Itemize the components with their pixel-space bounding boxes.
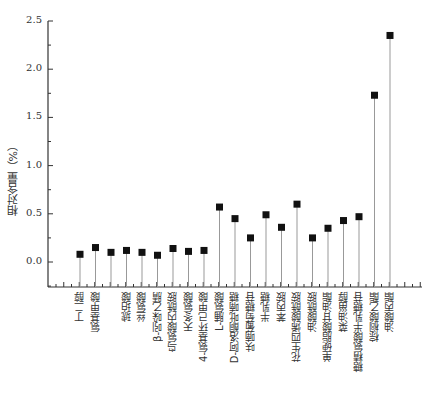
x-tick-label: D-阿洛酮吡喃糖 xyxy=(229,292,240,363)
data-point-marker xyxy=(216,204,223,211)
data-point-marker xyxy=(356,213,363,220)
x-tick-label: 琥珀酸 xyxy=(121,292,132,322)
data-point-marker xyxy=(263,211,270,218)
x-tick-label: 天冬氨酸 xyxy=(183,292,194,332)
data-point-marker xyxy=(77,251,84,258)
y-tick-label: 1.0 xyxy=(18,159,42,170)
data-point-marker xyxy=(170,245,177,252)
x-tick-label: 菜油甾醇 xyxy=(338,292,349,332)
data-point-marker xyxy=(247,234,254,241)
y-tick-label: 1.5 xyxy=(18,110,42,121)
data-point-marker xyxy=(232,215,239,222)
x-tick-label: 苯丙胺 xyxy=(276,292,287,322)
x-tick-label: 呋喃葡萄糖苷 xyxy=(245,292,256,352)
x-tick-label: 鸟氨酸内酰胺 xyxy=(167,292,178,352)
data-point-marker xyxy=(154,252,161,259)
data-point-marker xyxy=(294,201,301,208)
x-tick-label: 单硬脂酸甘油酯 xyxy=(322,292,333,362)
data-point-marker xyxy=(139,249,146,256)
y-tick-label: 2.5 xyxy=(18,14,42,25)
x-tick-label: 油酸酰胺 xyxy=(307,292,318,332)
x-tick-label: β-吲哚乙腈 xyxy=(152,292,163,342)
x-tick-label: L-脯氨酸 xyxy=(214,292,225,331)
data-point-marker xyxy=(340,217,347,224)
data-point-marker xyxy=(123,247,130,254)
data-point-marker xyxy=(201,247,208,254)
data-point-marker xyxy=(108,249,115,256)
data-point-marker xyxy=(185,248,192,255)
x-tick-label: 丝氨酸 xyxy=(136,292,147,322)
x-tick-label: 半乳糖 xyxy=(260,292,271,322)
data-point-marker xyxy=(309,234,316,241)
y-tick-label: 2.0 xyxy=(18,62,42,73)
x-tick-label: 花生四烯酸酰胺 xyxy=(291,292,302,362)
data-point-marker xyxy=(325,225,332,232)
x-tick-label: 氨基甲酸 xyxy=(90,292,101,332)
y-tick-label: 0.5 xyxy=(18,207,42,218)
data-point-marker xyxy=(278,224,285,231)
x-tick-label: 糖精氨酸半乳糖苷 xyxy=(353,292,364,372)
x-tick-label: 4-氨基环己甲酸 xyxy=(198,292,209,362)
x-tick-label: 丁二醇 xyxy=(74,292,85,322)
x-tick-label: 油酸丙酯 xyxy=(384,292,395,332)
y-tick-label: 0.0 xyxy=(18,255,42,266)
x-tick-label: 棕榈酸乙酯 xyxy=(369,292,380,342)
data-point-marker xyxy=(371,92,378,99)
data-point-marker xyxy=(387,32,394,39)
data-point-marker xyxy=(92,244,99,251)
